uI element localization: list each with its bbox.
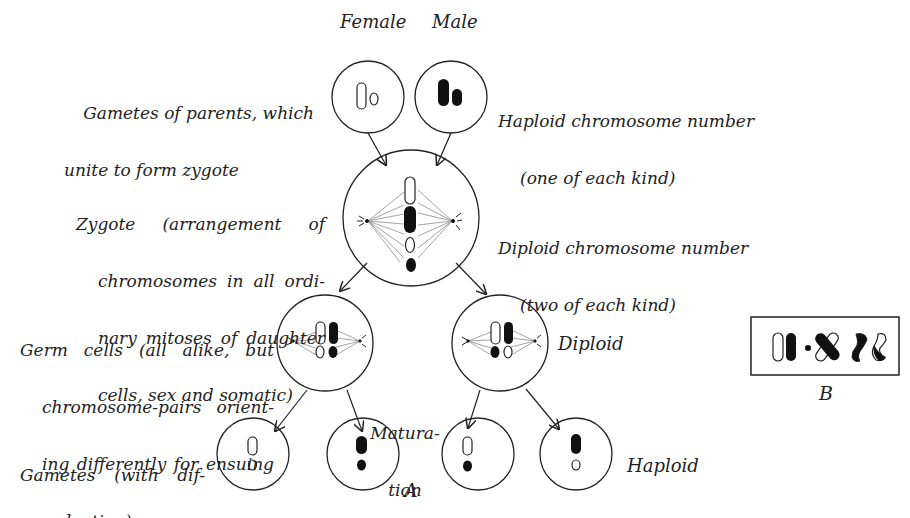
arrow-germ-left-to-gamete-2	[347, 390, 362, 431]
label-line: chromosomes in all ordi-	[76, 272, 325, 291]
label-line: Gametes (with dif-	[20, 466, 205, 485]
panel-b-box	[751, 317, 899, 375]
female-gamete-cell	[332, 61, 404, 133]
label-diploid-germ: Diploid	[558, 334, 624, 353]
arrow-zygote-to-germ-left	[340, 263, 367, 291]
arrow-female-to-zygote	[368, 133, 386, 165]
label-line: chromosome-pairs orient-	[20, 398, 274, 417]
label-line: Diploid chromosome number	[498, 239, 748, 258]
label-line: (one of each kind)	[498, 169, 754, 188]
label-line: Germ cells (all alike, but	[20, 341, 274, 360]
chromosome-short-black	[452, 89, 462, 106]
arrow-male-to-zygote	[437, 133, 451, 165]
label-gametes-combinations: Gametes (with dif- ferent combina- tions…	[20, 428, 205, 518]
heading-male: Male	[432, 12, 478, 31]
arrow-germ-right-to-gamete-4	[526, 389, 559, 429]
panel-a-label: A	[404, 481, 418, 500]
chromosome-long-white	[357, 83, 366, 109]
label-diploid-zygote: Diploid chromosome number (two of each k…	[498, 201, 748, 353]
gamete-4	[540, 418, 612, 490]
chromosome-short-white	[370, 93, 378, 105]
label-line: Zygote (arrangement of	[76, 215, 325, 234]
gamete-3	[442, 418, 514, 490]
centromere-dot	[805, 345, 811, 351]
arrow-zygote-to-germ-right	[456, 263, 486, 294]
heading-female: Female	[340, 12, 406, 31]
label-line: Gametes of parents, which	[40, 104, 314, 123]
chromosome-black-rod	[786, 333, 796, 361]
panel-b-label: B	[819, 384, 833, 403]
male-gamete-cell	[415, 61, 487, 133]
chromosome-white-rod	[773, 333, 783, 361]
label-haploid-bottom: Haploid	[627, 456, 699, 475]
label-line: (two of each kind)	[498, 296, 748, 315]
label-line: Matura-	[370, 424, 440, 443]
chromosome-diagram: Female Male Gametes of parents, which un…	[0, 0, 910, 518]
exchanged-chromatid-chromosomes	[852, 334, 886, 362]
crossing-over-chromosomes	[813, 331, 842, 363]
label-line: Haploid chromosome number	[498, 112, 754, 131]
chromosome-long-black	[438, 79, 449, 106]
arrow-germ-right-to-gamete-3	[468, 390, 480, 428]
